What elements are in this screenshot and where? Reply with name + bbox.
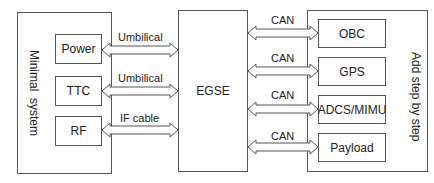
arrow-can-3	[248, 102, 318, 116]
connector-arrows	[0, 0, 434, 183]
arrow-can-1	[248, 26, 318, 40]
link-label-if-cable: IF cable	[120, 112, 159, 124]
link-label-can-2: CAN	[271, 52, 294, 64]
link-label-can-1: CAN	[271, 14, 294, 26]
arrow-if-cable	[102, 123, 178, 137]
link-label-can-3: CAN	[271, 89, 294, 101]
link-label-umbilical-2: Umbilical	[118, 72, 163, 84]
arrow-umbilical-2	[102, 84, 178, 98]
link-label-can-4: CAN	[271, 130, 294, 142]
arrow-umbilical-1	[102, 43, 178, 57]
arrow-can-4	[248, 140, 318, 154]
link-label-umbilical-1: Umbilical	[118, 31, 163, 43]
arrow-can-2	[248, 64, 318, 78]
